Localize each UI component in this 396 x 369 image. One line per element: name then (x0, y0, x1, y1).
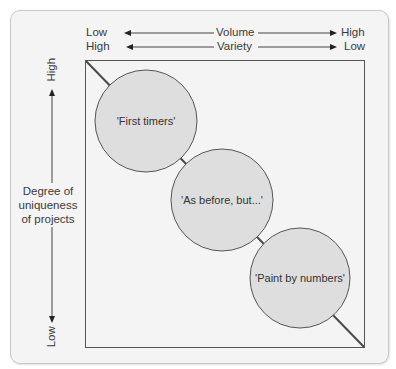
variety-low-label: Low (344, 41, 365, 53)
arrow-right-icon (330, 30, 337, 36)
arrow-right-icon (330, 44, 337, 50)
volume-high-label: High (341, 27, 365, 39)
volume-axis-label: Volume (216, 27, 254, 39)
arrow-up-icon (49, 89, 55, 96)
arrow-left-icon (126, 44, 133, 50)
arrow-down-icon (49, 316, 55, 323)
as-before-but-label: 'As before, but...' (181, 194, 263, 206)
variety-high-label: High (86, 41, 110, 53)
uniqueness-high-label: High (46, 56, 58, 84)
paint-by-numbers-label: 'Paint by numbers' (255, 272, 345, 284)
variety-axis-label: Variety (217, 41, 252, 53)
volume-low-label: Low (86, 27, 107, 39)
uniqueness-low-label: Low (46, 325, 58, 349)
uniqueness-axis-label: Degree of uniqueness of projects (14, 184, 82, 226)
arrow-left-icon (124, 30, 131, 36)
first-timers-label: 'First timers' (117, 115, 176, 127)
